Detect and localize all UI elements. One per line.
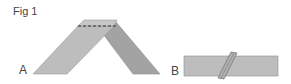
- panel-a-folded-strip: [33, 20, 160, 74]
- top-flap: [78, 20, 117, 26]
- left-strip: [33, 26, 114, 74]
- diagram-canvas: [0, 0, 291, 84]
- panel-b-flat-strip: [184, 52, 278, 79]
